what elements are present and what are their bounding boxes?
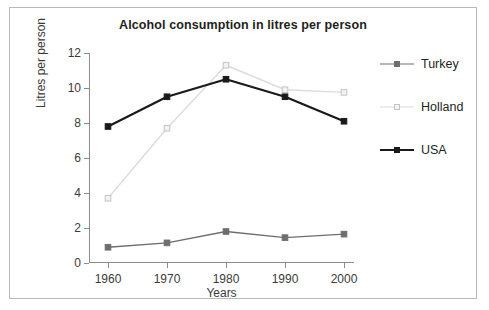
legend-label: Holland [421, 100, 463, 114]
data-point [223, 76, 229, 82]
data-point [105, 244, 111, 250]
legend-marker-icon [394, 147, 400, 153]
y-tick-label: 12 [68, 46, 81, 60]
legend-marker-icon [394, 104, 400, 110]
chart-figure: Alcohol consumption in litres per person… [9, 7, 477, 299]
y-tick [84, 263, 89, 264]
x-tick-label: 1980 [213, 272, 240, 286]
legend-item-turkey[interactable]: Turkey [380, 56, 484, 71]
y-tick-label: 4 [74, 186, 81, 200]
x-tick-label: 2000 [331, 272, 358, 286]
legend-marker-icon [394, 61, 400, 67]
x-tick-label: 1970 [154, 272, 181, 286]
series-plot [89, 53, 354, 263]
legend-item-usa[interactable]: USA [380, 142, 484, 157]
x-tick [108, 263, 109, 268]
data-point [341, 118, 347, 124]
series-turkey [105, 229, 347, 250]
x-tick-label: 1990 [272, 272, 299, 286]
x-tick [226, 263, 227, 268]
y-tick-label: 0 [74, 256, 81, 270]
legend-swatch-icon [380, 58, 414, 70]
data-point [105, 124, 111, 130]
x-tick [344, 263, 345, 268]
data-point [341, 231, 347, 237]
x-tick-label: 1960 [95, 272, 122, 286]
chart-legend: TurkeyHollandUSA [380, 56, 484, 185]
x-tick [167, 263, 168, 268]
data-point [164, 125, 170, 131]
data-point [164, 94, 170, 100]
series-usa [105, 76, 347, 129]
x-axis-title: Years [89, 286, 354, 300]
y-tick-label: 6 [74, 151, 81, 165]
data-point [282, 94, 288, 100]
data-point [282, 87, 288, 93]
data-point [164, 240, 170, 246]
series-holland [105, 62, 347, 201]
data-point [223, 62, 229, 68]
legend-label: Turkey [421, 57, 459, 71]
legend-swatch-icon [380, 144, 414, 156]
chart-title: Alcohol consumption in litres per person [10, 18, 476, 32]
y-tick-label: 8 [74, 116, 81, 130]
y-axis-title: Litres per person [34, 18, 48, 108]
data-point [105, 195, 111, 201]
data-point [282, 235, 288, 241]
series-line [108, 79, 344, 126]
legend-label: USA [421, 143, 447, 157]
series-line [108, 65, 344, 198]
data-point [341, 90, 347, 96]
legend-item-holland[interactable]: Holland [380, 99, 484, 114]
x-tick [285, 263, 286, 268]
data-point [223, 229, 229, 235]
y-tick-label: 10 [68, 81, 81, 95]
y-tick-label: 2 [74, 221, 81, 235]
legend-swatch-icon [380, 101, 414, 113]
plot-area: 024681012 19601970198019902000 [89, 53, 354, 263]
